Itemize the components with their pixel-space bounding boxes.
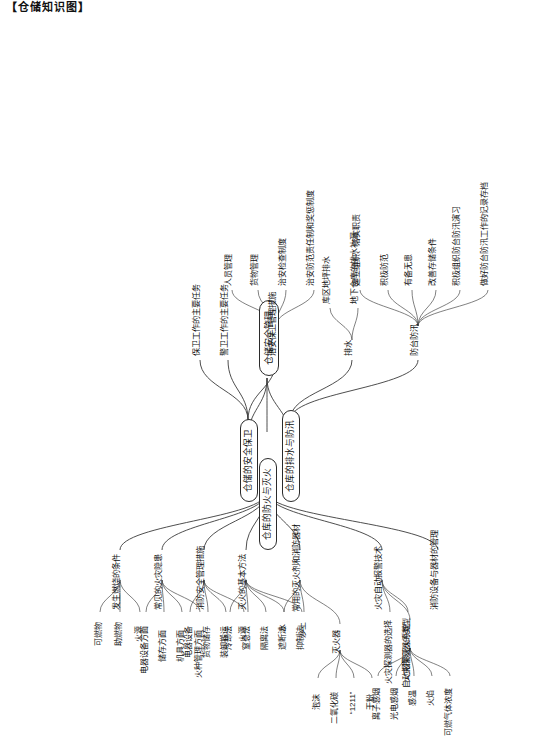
leaf-measure-goods-storage[interactable]: 货物储存 bbox=[202, 626, 211, 658]
node-security-measures[interactable]: 治安保卫管理措施 bbox=[268, 292, 277, 356]
mindmap-canvas: 仓储安全管理 仓库的防火与灭火 仓储的安全保卫 仓库的排水与防汛 发生燃烧的条件… bbox=[0, 0, 534, 750]
node-flood-prevention[interactable]: 防台防汛 bbox=[410, 324, 419, 356]
node-branch-drainage[interactable]: 仓库的排水与防汛 bbox=[282, 410, 300, 502]
node-branch-fire-label: 仓库的防火与灭火 bbox=[263, 468, 273, 540]
node-sentry-main-tasks[interactable]: 警卫工作的主要任务 bbox=[220, 284, 229, 356]
node-branch-security-label: 仓储的安全保卫 bbox=[244, 429, 254, 492]
node-fire-hazards[interactable]: 常见的火灾隐患 bbox=[154, 554, 163, 610]
node-fire-equipment-mgmt[interactable]: 消防设备与器材的管理 bbox=[430, 530, 439, 610]
leaf-auto-alarm-system[interactable]: 自动报警灭火系统 bbox=[402, 624, 411, 688]
node-fire-measures[interactable]: 消防安全管理措施 bbox=[196, 546, 205, 610]
leaf-ion-smoke[interactable]: 离子感烟 bbox=[372, 688, 381, 720]
leaf-drill-exercise[interactable]: 积极组织防台防汛演习 bbox=[452, 206, 461, 286]
leaf-combustible[interactable]: 可燃物 bbox=[94, 622, 103, 646]
leaf-measure-electrical[interactable]: 电器设备 bbox=[184, 626, 193, 658]
node-fire-alarm-tech[interactable]: 火灾自动报警技术 bbox=[374, 546, 383, 610]
node-drainage[interactable]: 排水 bbox=[344, 340, 353, 356]
leaf-ext-co2[interactable]: 二氧化碳 bbox=[330, 692, 339, 724]
leaf-hazard-electrical[interactable]: 电器设备方面 bbox=[140, 626, 149, 674]
node-branch-fire[interactable]: 仓库的防火与灭火 bbox=[259, 458, 277, 550]
leaf-agent-sand[interactable]: 沙土 bbox=[298, 622, 307, 638]
node-branch-drainage-label: 仓库的排水与防汛 bbox=[286, 420, 296, 492]
node-fire-methods[interactable]: 灭火的基本方法 bbox=[238, 554, 247, 610]
leaf-hazard-storage[interactable]: 储存方面 bbox=[158, 630, 167, 662]
leaf-method-smothering[interactable]: 窒息法 bbox=[242, 626, 251, 650]
leaf-active-prevention[interactable]: 积极防范 bbox=[380, 254, 389, 286]
leaf-oxidizer[interactable]: 助燃物 bbox=[114, 622, 123, 646]
leaf-be-prepared[interactable]: 有备无患 bbox=[404, 254, 413, 286]
leaf-responsibility-reward[interactable]: 治安防范责任制和奖惩制度 bbox=[306, 190, 315, 286]
leaf-method-isolation[interactable]: 隔离法 bbox=[260, 626, 269, 650]
node-extinguisher[interactable]: 灭火器 bbox=[332, 630, 341, 654]
node-fire-conditions[interactable]: 发生燃烧的条件 bbox=[112, 554, 121, 610]
leaf-personnel-mgmt[interactable]: 人员管理 bbox=[224, 254, 233, 286]
leaf-heat-sensor[interactable]: 感温 bbox=[408, 690, 417, 706]
leaf-gas-concentration[interactable]: 可燃气体浓度 bbox=[444, 688, 453, 736]
leaf-flame-sensor[interactable]: 火焰 bbox=[426, 690, 435, 706]
leaf-detector-selection[interactable]: 火灾探测器的选择 bbox=[384, 620, 393, 684]
leaf-security-inspection[interactable]: 治安检查制度 bbox=[278, 238, 287, 286]
leaf-yard-drainage[interactable]: 库区地坪排水 bbox=[322, 256, 331, 304]
leaf-ext-foam[interactable]: 泡沫 bbox=[312, 694, 321, 710]
node-branch-security[interactable]: 仓储的安全保卫 bbox=[240, 419, 258, 502]
leaf-method-cooling[interactable]: 冷却法 bbox=[224, 626, 233, 650]
leaf-establish-org[interactable]: 建立组织、落实职责 bbox=[352, 214, 361, 286]
node-guard-main-tasks[interactable]: 保卫工作的主要任务 bbox=[192, 284, 201, 356]
leaf-improve-storage[interactable]: 改善存储条件 bbox=[428, 238, 437, 286]
node-fire-agents[interactable]: 常用的灭火剂和消防器材 bbox=[292, 524, 301, 612]
leaf-goods-mgmt[interactable]: 货物管理 bbox=[250, 254, 259, 286]
leaf-agent-water[interactable]: 水 bbox=[278, 624, 287, 632]
leaf-ext-1211[interactable]: “1211” bbox=[348, 691, 357, 714]
leaf-photoelectric-smoke[interactable]: 光电感烟 bbox=[390, 688, 399, 720]
leaf-record-archive[interactable]: 做好防台防汛工作的记录存档 bbox=[480, 182, 489, 286]
